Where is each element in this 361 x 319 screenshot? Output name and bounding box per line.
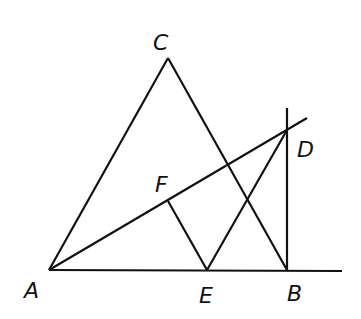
segment-fe: [168, 201, 207, 270]
label-point-c: C: [153, 30, 169, 55]
segment-ab-extended: [49, 270, 342, 271]
label-point-e: E: [199, 283, 213, 308]
segment-ac: [49, 58, 168, 270]
label-point-a: A: [22, 278, 39, 303]
geometry-diagram: C D F A E B: [0, 0, 361, 319]
segment-ad-extended: [49, 118, 307, 270]
label-point-b: B: [287, 281, 302, 306]
label-point-d: D: [297, 137, 314, 162]
label-point-f: F: [155, 172, 168, 197]
diagram-svg: C D F A E B: [0, 0, 361, 319]
